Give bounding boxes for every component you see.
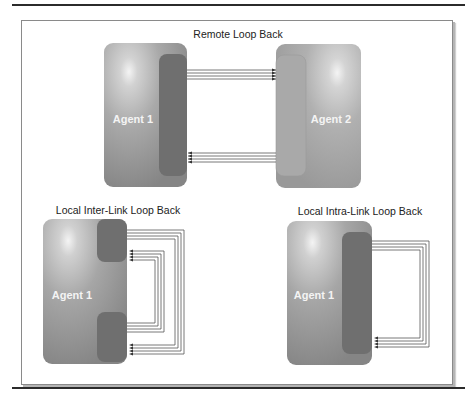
link-agent1-to-agent2 (187, 70, 276, 79)
link-agent2-to-agent1 (188, 153, 276, 162)
arrowheads-port-in (374, 337, 378, 349)
panel-local-intra-link-loop-back: Local Intra-Link Loop Back Agent 1 (287, 205, 429, 365)
agent-1-block: Agent 1 (43, 219, 127, 364)
port (342, 232, 372, 354)
panel-title: Local Intra-Link Loop Back (298, 205, 423, 217)
bottom-rule (12, 387, 465, 389)
agent-2-block: Agent 2 (276, 44, 361, 188)
agent-label: Agent 2 (311, 113, 351, 125)
agent-label: Agent 1 (113, 113, 153, 125)
link-intra-loop (372, 241, 429, 347)
agent-label: Agent 1 (294, 289, 334, 301)
agent-label: Agent 1 (52, 289, 92, 301)
panel-local-inter-link-loop-back: Local Inter-Link Loop Back Agent 1 (43, 204, 184, 364)
link-top-to-bottom (127, 230, 184, 354)
port-top (97, 219, 127, 262)
panel-remote-loop-back: Remote Loop Back Agent 1 Agent 2 (104, 28, 361, 188)
agent-1-port (159, 54, 187, 176)
link-bottom-to-top (127, 251, 164, 332)
agent-1-block: Agent 1 (104, 43, 187, 187)
panel-title: Remote Loop Back (193, 28, 283, 40)
arrowheads-top-port (129, 250, 133, 262)
agent-2-port (276, 55, 306, 176)
loopback-diagram: Remote Loop Back Agent 1 Agent 2 (0, 0, 475, 399)
panel-title: Local Inter-Link Loop Back (56, 204, 181, 216)
agent-1-block: Agent 1 (287, 221, 372, 365)
arrowheads-bottom-port (129, 344, 133, 356)
port-bottom (97, 312, 127, 362)
